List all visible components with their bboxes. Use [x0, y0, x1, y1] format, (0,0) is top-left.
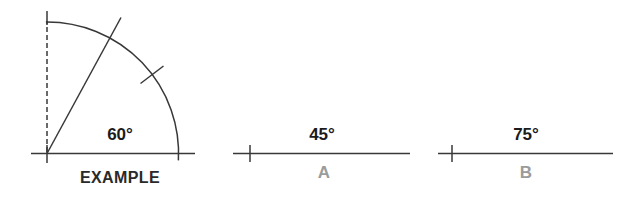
exercise-b-figure — [438, 145, 613, 162]
exercise-b-angle-label: 75° — [496, 126, 556, 143]
exercise-b-caption: B — [496, 164, 556, 181]
exercise-a-caption: A — [294, 164, 354, 181]
example-angle-label: 60° — [90, 126, 150, 143]
worksheet-canvas: 60° EXAMPLE 45° A 75° B — [0, 0, 644, 202]
exercise-a-angle-label: 45° — [292, 126, 352, 143]
example-caption: EXAMPLE — [45, 169, 195, 186]
exercise-a-figure — [233, 145, 410, 162]
example-arc-mid-tick — [141, 66, 164, 84]
